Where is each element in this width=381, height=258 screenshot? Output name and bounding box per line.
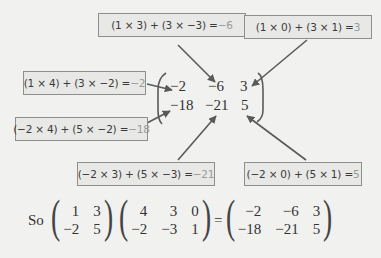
matrix-c: −2 −6 3 −18 −21 5 bbox=[238, 203, 320, 238]
matrix-c-cell: −2 bbox=[238, 203, 261, 220]
calc-expression: (1 × 4) + (3 × −2) = bbox=[24, 77, 130, 89]
matrix-b-cell: −2 bbox=[131, 221, 147, 238]
equals-sign: = bbox=[214, 212, 222, 229]
calc-result: −2 bbox=[130, 77, 145, 89]
equation-prefix: So bbox=[28, 212, 44, 229]
paren-right: ) bbox=[104, 194, 113, 240]
matrix-b-cell: 3 bbox=[161, 203, 177, 220]
matrix-a: 1 3 −2 5 bbox=[63, 203, 100, 238]
paren-right: ) bbox=[323, 194, 332, 240]
matrix-b-cell: 0 bbox=[191, 203, 199, 220]
result-r2c2: −21 bbox=[205, 97, 228, 114]
calc-box-row1-col3: (1 × 0) + (3 × 1) = 3 bbox=[244, 15, 372, 39]
result-r1c2: −6 bbox=[208, 78, 224, 95]
paren-left: ( bbox=[226, 194, 235, 240]
calc-box-row2-col1: (−2 × 4) + (5 × −2) = −18 bbox=[15, 117, 148, 141]
matrix-a-cell: −2 bbox=[63, 221, 79, 238]
calc-expression: (−2 × 4) + (5 × −2) = bbox=[13, 123, 128, 135]
paren-right: ) bbox=[202, 194, 211, 240]
matrix-c-cell: 3 bbox=[313, 203, 321, 220]
matrix-c-cell: −6 bbox=[275, 203, 298, 220]
matrix-c-cell: 5 bbox=[313, 221, 321, 238]
matrix-b-cell: −3 bbox=[161, 221, 177, 238]
equation: So ( 1 3 −2 5 ) ( 4 3 0 −2 −3 1 ) = ( −2… bbox=[28, 200, 336, 240]
matrix-b: 4 3 0 −2 −3 1 bbox=[131, 203, 198, 238]
matrix-b-cell: 1 bbox=[191, 221, 199, 238]
calc-expression: (−2 × 3) + (5 × −3) = bbox=[78, 168, 193, 180]
calc-expression: (1 × 0) + (3 × 1) = bbox=[256, 21, 354, 33]
result-r1c1: −2 bbox=[170, 78, 186, 95]
calc-result: 5 bbox=[353, 168, 359, 180]
result-r2c1: −18 bbox=[170, 97, 193, 114]
matrix-a-cell: 5 bbox=[93, 221, 101, 238]
calc-box-row1-col2: (1 × 3) + (3 × −3) = −6 bbox=[98, 13, 246, 37]
result-r2c3: 5 bbox=[241, 97, 249, 114]
calc-box-row2-col2: (−2 × 3) + (5 × −3) = −21 bbox=[77, 162, 215, 186]
calc-expression: (1 × 3) + (3 × −3) = bbox=[111, 19, 217, 31]
calc-box-row2-col3: (−2 × 0) + (5 × 1) = 5 bbox=[244, 162, 362, 186]
calc-box-row1-col1: (1 × 4) + (3 × −2) = −2 bbox=[23, 71, 146, 95]
matrix-a-cell: 1 bbox=[63, 203, 79, 220]
calc-result: −21 bbox=[193, 168, 215, 180]
paren-left: ( bbox=[51, 194, 60, 240]
calc-result: −6 bbox=[218, 19, 233, 31]
calc-expression: (−2 × 0) + (5 × 1) = bbox=[247, 168, 353, 180]
result-r1c3: 3 bbox=[240, 78, 248, 95]
matrix-b-cell: 4 bbox=[131, 203, 147, 220]
matrix-c-cell: −18 bbox=[238, 221, 261, 238]
matrix-c-cell: −21 bbox=[275, 221, 298, 238]
paren-left: ( bbox=[119, 194, 128, 240]
calc-result: 3 bbox=[354, 21, 360, 33]
matrix-a-cell: 3 bbox=[93, 203, 101, 220]
calc-result: −18 bbox=[128, 123, 150, 135]
